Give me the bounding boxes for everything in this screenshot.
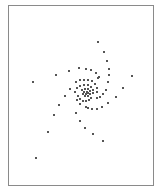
data-point [99, 96, 101, 98]
data-point [75, 112, 77, 114]
data-point [122, 87, 124, 89]
data-point [79, 98, 81, 100]
data-point [81, 89, 83, 91]
data-point [108, 74, 110, 76]
data-point [83, 84, 85, 86]
data-point [76, 99, 78, 101]
data-point [82, 100, 84, 102]
data-point [84, 95, 86, 97]
data-point [94, 83, 96, 85]
data-point [101, 106, 103, 108]
data-point [82, 93, 84, 95]
data-point [96, 97, 98, 99]
data-point [58, 104, 60, 106]
data-point [87, 79, 89, 81]
data-point [89, 90, 91, 92]
data-point [91, 80, 93, 82]
data-point [74, 91, 76, 93]
data-point [115, 96, 117, 98]
spiral-scatter-plot [0, 0, 163, 193]
data-point [79, 79, 81, 81]
data-point [91, 108, 93, 110]
data-point [64, 95, 66, 97]
data-point [79, 103, 81, 105]
data-points [32, 41, 133, 159]
data-point [107, 102, 109, 104]
data-point [90, 69, 92, 71]
data-point [92, 89, 94, 91]
data-point [96, 108, 98, 110]
data-point [97, 77, 99, 79]
data-point [103, 51, 105, 53]
data-point [107, 81, 109, 83]
data-point [92, 92, 94, 94]
data-point [106, 60, 108, 62]
data-point [53, 114, 55, 116]
data-point [96, 91, 98, 93]
data-point [32, 81, 34, 83]
data-point [102, 93, 104, 95]
data-point [85, 93, 87, 95]
data-point [55, 74, 57, 76]
data-point [87, 95, 89, 97]
data-point [77, 95, 79, 97]
data-point [79, 85, 81, 87]
data-point [89, 93, 91, 95]
data-point [84, 127, 86, 129]
data-point [85, 68, 87, 70]
data-point [108, 68, 110, 70]
data-point [88, 99, 90, 101]
data-point [90, 97, 92, 99]
data-point [83, 79, 85, 81]
data-point [87, 92, 89, 94]
data-point [75, 81, 77, 83]
data-point [105, 89, 107, 91]
data-point [87, 107, 89, 109]
data-point [95, 72, 97, 74]
data-point [87, 84, 89, 86]
data-point [35, 157, 37, 159]
data-point [79, 120, 81, 122]
data-point [131, 75, 133, 77]
data-point [85, 106, 87, 108]
data-point [76, 87, 78, 89]
data-point [83, 91, 85, 93]
data-point [84, 88, 86, 90]
data-point [102, 140, 104, 142]
data-point [68, 70, 70, 72]
data-point [85, 100, 87, 102]
data-point [87, 88, 89, 90]
data-point [47, 131, 49, 133]
data-point [96, 87, 98, 89]
data-point [92, 133, 94, 135]
data-point [97, 41, 99, 43]
plot-frame [9, 6, 154, 186]
data-point [78, 67, 80, 69]
data-point [69, 88, 71, 90]
data-point [90, 86, 92, 88]
